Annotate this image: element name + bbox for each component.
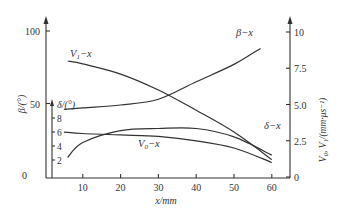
- x-tick-label: 40: [191, 182, 201, 193]
- inner-tick-label: 6: [57, 128, 62, 138]
- label-v1-curve: V1−x: [70, 48, 92, 61]
- inner-tick-label: 4: [57, 142, 62, 152]
- right-axis-title: V₀, V₁/(mm·μs⁻¹): [318, 98, 329, 162]
- curves: [64, 48, 272, 162]
- x-tick-label: 10: [78, 182, 88, 193]
- x-tick-label: 20: [116, 182, 126, 193]
- x-tick-label: 50: [229, 182, 239, 193]
- curve--x: [64, 48, 261, 109]
- labels: β−xV1−xV0−xδ−x: [70, 27, 281, 151]
- left-axis-title: β/(°): [16, 94, 28, 114]
- right-tick-label: 2.5: [294, 136, 307, 147]
- x-axis-title: x/mm: [154, 195, 177, 206]
- right-tick-label: 0: [294, 172, 299, 183]
- left-axis-arrow-icon: [44, 16, 49, 24]
- right-axis-arrow-icon: [288, 16, 293, 24]
- inner-tick-label: 8: [57, 114, 62, 124]
- curve--x: [68, 128, 272, 157]
- label-beta-curve: β−x: [235, 27, 253, 38]
- curve-v1-x: [68, 61, 272, 160]
- axes: 100500β/(°)8642δ/(°)102030405060x/mm107.…: [16, 16, 329, 206]
- right-tick-label: 5.0: [294, 100, 307, 111]
- chart-container: 100500β/(°)8642δ/(°)102030405060x/mm107.…: [0, 0, 340, 218]
- left-tick-label: 100: [25, 26, 40, 37]
- inner-tick-label: 2: [57, 156, 62, 166]
- x-tick-label: 30: [153, 182, 163, 193]
- x-tick-label: 60: [267, 182, 277, 193]
- left-tick-label: 50: [30, 99, 40, 110]
- inner-axis-arrow-icon: [50, 99, 54, 106]
- line-chart: 100500β/(°)8642δ/(°)102030405060x/mm107.…: [0, 0, 340, 218]
- origin-label: 0: [22, 170, 27, 181]
- label-v0-curve: V0−x: [138, 138, 160, 151]
- right-tick-label: 7.5: [294, 63, 307, 74]
- right-tick-label: 10: [294, 27, 304, 38]
- label-delta-curve: δ−x: [264, 120, 281, 131]
